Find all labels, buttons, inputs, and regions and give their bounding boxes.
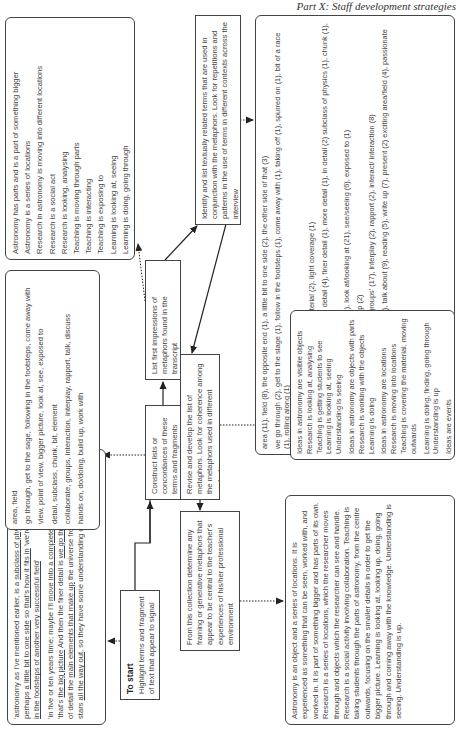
ideas-line: Learning is doing, finding, going throug… [422, 316, 442, 454]
step-list-first-impressions: List first impressions of metaphors foun… [145, 260, 181, 380]
underlined-metaphor-fragment: all the way out [76, 652, 85, 701]
terms-line: view, point of view, bigger picture, loo… [36, 276, 46, 524]
underlined-metaphor-fragment: the big picture [56, 650, 65, 698]
quote-text: ' [32, 560, 41, 561]
metaphor-item: Teaching is exposing to [95, 23, 107, 254]
metaphor-item: Research is looking, analysing [59, 23, 71, 254]
metaphor-item: Research is a social act [47, 23, 59, 254]
step-revise-text: Revise and develop the list of metaphors… [185, 360, 220, 494]
metaphor-list-box: Astronomy has parts and is a part of som… [5, 17, 135, 260]
step-identify-terms: Identify and list textually related term… [195, 15, 241, 225]
metaphor-item: Teaching is moving through parts [71, 23, 83, 254]
arrow-start-to-construct [135, 498, 150, 591]
step-determine-metaphors: From this collection determine any frami… [180, 511, 240, 651]
summary-box: Astronomy is an object and a series of l… [285, 495, 455, 725]
metaphor-item: Teaching is interacting [83, 23, 95, 254]
step-construct-lists: Construct lists or concordances of these… [145, 405, 181, 500]
terms-line: detail, subclass, chunk, bit, element [50, 276, 60, 524]
terms-line: go through, get to the sage, following i… [23, 276, 33, 524]
step-construct-text: Construct lists or concordances of these… [150, 411, 181, 494]
terms-line: collaborate, groups, interaction, interp… [63, 276, 73, 524]
underlined-metaphor-fragment: a little bit to one side [22, 620, 31, 689]
ideas-list-box: Ideas in astronomy are visible objects R… [290, 310, 455, 460]
counts-line: area (11), field (8), the opposite end (… [260, 21, 270, 449]
flowchart-canvas: 'astronomy as I've mentioned earlier, is… [0, 0, 460, 731]
ideas-line: Ideas in astronomy are objects with part… [347, 316, 376, 454]
underlined-metaphor-fragment: main elements that make up [66, 582, 75, 677]
terms-list-box: area, field go through, get to the sage,… [5, 270, 100, 530]
metaphor-item: Learning is looking at, seeing [108, 23, 120, 254]
quote-text: 'in five or ten years time; maybe I'll [46, 601, 55, 719]
metaphor-item: Learning is doing, going through [120, 23, 132, 254]
step-to-start-text: Highlight terms and fragment of text tha… [137, 596, 160, 694]
ideas-line: Ideas in astronomy are visible objects R… [295, 316, 344, 454]
metaphor-item: Research in astronomy is moving into dif… [34, 23, 46, 254]
underlined-metaphor-fragment: that's how it fits in [22, 548, 31, 608]
summary-text: Astronomy is an object and a series of l… [290, 501, 404, 719]
metaphor-item: Astronomy has parts and is a part of som… [10, 23, 22, 254]
ideas-line: Ideas are events [444, 316, 454, 454]
step-determine-text: From this collection determine any frami… [185, 517, 236, 645]
terms-line: hands on, do/doing, build up, work with [76, 276, 86, 524]
counts-line: we go through (2), get to the stage (1),… [273, 21, 292, 449]
metaphor-item: Astronomy is a series of locations [22, 23, 34, 254]
step-revise-develop: Revise and develop the list of metaphors… [180, 354, 220, 500]
ideas-line: Ideas in astronomy are locations Researc… [379, 316, 418, 454]
terms-line: area, field [10, 276, 20, 524]
step-to-start: To start Highlight terms and fragment of… [120, 590, 160, 700]
quote-text: 'astronomy as I've mentioned earlier, is… [12, 580, 21, 719]
quote-text: so [22, 608, 31, 620]
step-identify-text: Identify and list textually related term… [200, 21, 241, 219]
step-to-start-title: To start [125, 596, 135, 694]
step-list-first-line1: List first impressions of metaphors foun… [150, 266, 181, 374]
quote-text: And then the finer detail is [56, 558, 65, 650]
